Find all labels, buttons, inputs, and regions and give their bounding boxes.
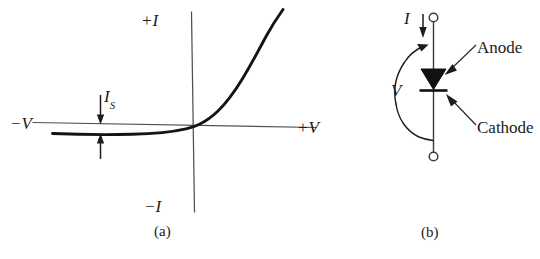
- is-arrow-down-head: [97, 115, 104, 125]
- voltage-arc-arrow-head: [417, 44, 429, 52]
- panel-b-caption: (b): [421, 225, 439, 240]
- bottom-terminal-node: [429, 152, 438, 161]
- saturation-current-symbol: I: [104, 87, 110, 106]
- panel-a-caption: (a): [154, 224, 171, 239]
- cathode-leader-line: [452, 100, 476, 125]
- voltage-arc-upper-top: [404, 47, 422, 63]
- axis-label-positive-voltage: +V: [297, 119, 319, 136]
- diode-anode-triangle: [421, 69, 446, 90]
- panel-a-graph: [33, 10, 316, 213]
- cathode-label: Cathode: [477, 119, 534, 136]
- current-label: I: [404, 10, 410, 27]
- panel-b-symbol: [395, 13, 476, 161]
- anode-label: Anode: [477, 39, 522, 56]
- voltage-label: V: [391, 82, 401, 99]
- y-axis-line: [192, 12, 195, 212]
- axis-label-positive-current: +I: [141, 12, 158, 29]
- top-terminal-node: [429, 13, 438, 22]
- x-axis-line: [33, 123, 316, 128]
- saturation-current-label: IS: [104, 88, 115, 108]
- diode-iv-curve: [53, 10, 284, 135]
- figure-vector-layer: [0, 0, 540, 259]
- axis-label-negative-current: −I: [144, 198, 161, 215]
- current-arrow-head: [419, 27, 426, 38]
- cathode-leader: [446, 94, 476, 125]
- axis-label-negative-voltage: −V: [10, 115, 32, 132]
- voltage-arc-lower: [396, 104, 433, 141]
- current-direction-arrow: [419, 14, 426, 38]
- figure-diode-characteristic-and-symbol: +I −I −V +V IS (a) I V Anode Cathode (b): [0, 0, 540, 259]
- anode-leader: [445, 45, 477, 75]
- saturation-current-subscript: S: [110, 99, 116, 111]
- anode-leader-line: [451, 45, 476, 69]
